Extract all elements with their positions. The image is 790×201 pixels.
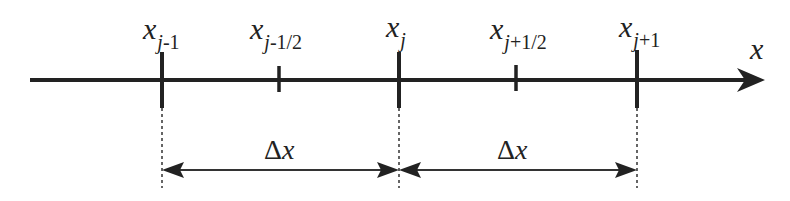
label-x-j-plus-1: xj+1: [619, 12, 660, 42]
label-x-j-minus-half: xj-1/2: [250, 14, 302, 44]
grid-diagram: xj-1 xj-1/2 xj xj+1/2 xj+1 x Δx Δx: [0, 0, 790, 201]
spacing-label-1: Δx: [264, 136, 294, 164]
spacing-label-2: Δx: [497, 136, 527, 164]
axis-label-x: x: [750, 34, 763, 64]
label-x-j-minus-1: xj-1: [143, 14, 180, 44]
label-x-j: xj: [386, 12, 406, 42]
label-x-j-plus-half: xj+1/2: [490, 14, 547, 44]
